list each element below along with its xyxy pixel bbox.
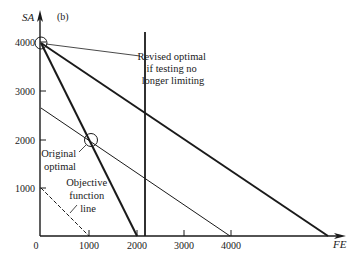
y-axis-label: SA [22,11,35,23]
objective-leader-line [70,205,77,213]
x-tick-label-4000: 4000 [221,240,241,251]
x-tick-label-3000: 3000 [174,240,194,251]
origin-label: 0 [34,240,39,251]
annotation-revised-optimal: Revised optimal if testing no longer lim… [137,51,208,86]
y-tick-label-2000: 2000 [15,135,35,146]
revised-leader-line [46,44,140,56]
y-tick-label-4000: 4000 [15,37,35,48]
annotation-original-optimal: Original optimal [41,148,79,172]
original-leader-line [79,145,86,152]
x-axis-label: FE [332,238,347,250]
x-ticks [89,230,231,236]
panel-label: (b) [57,11,69,23]
annotation-objective-function: Objective function line [66,177,109,214]
constraint-line-thin [41,108,230,236]
x-tick-label-2000: 2000 [127,240,147,251]
y-tick-label-3000: 3000 [15,86,35,97]
x-tick-label-1000: 1000 [79,240,99,251]
chart-canvas: 1000 2000 3000 4000 0 1000 2000 3000 400… [0,0,361,258]
y-tick-label-1000: 1000 [15,183,35,194]
